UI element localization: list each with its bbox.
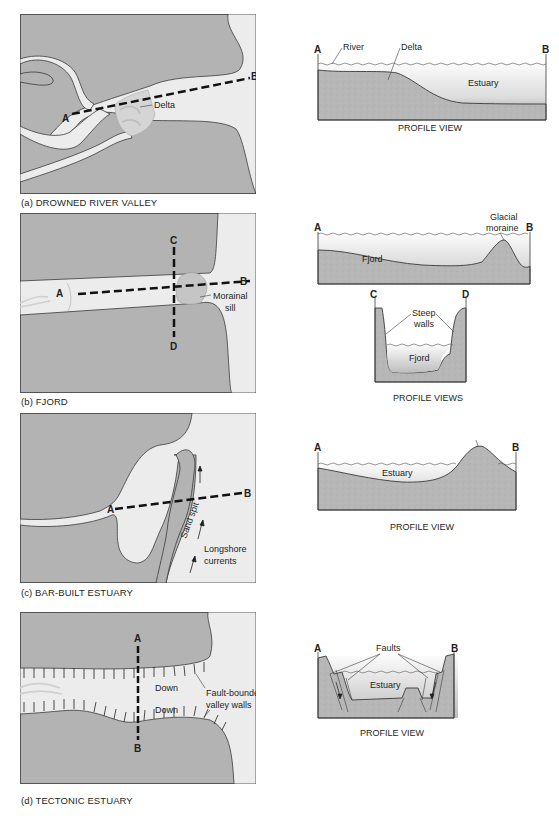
drowned-river-valley-profile: A B River Delta Estuary: [312, 40, 552, 130]
profile-b-glacial-label-2: moraine: [486, 223, 519, 233]
profile-a-estuary-label: Estuary: [468, 78, 499, 88]
fjord-ab-profile: A B Glacial moraine Fjord: [312, 210, 552, 290]
profile-view-label-b: PROFILE VIEWS: [393, 393, 463, 403]
tectonic-estuary-map: A B Down Down Fault-bounded valley walls: [20, 612, 256, 784]
map-b-point-a: A: [56, 288, 63, 299]
profile-a-river-label: River: [343, 42, 364, 52]
tectonic-estuary-profile: A B Faults Estuary: [312, 644, 472, 724]
map-tectonic-estuary: A B Down Down Fault-bounded valley walls: [20, 612, 256, 784]
profile-fjord-ab: A B Glacial moraine Fjord: [312, 210, 552, 290]
map-d-down-label-1: Down: [155, 683, 178, 693]
profile-drowned-river-valley: A B River Delta Estuary: [312, 40, 552, 130]
drowned-river-valley-map: A B Delta: [20, 14, 256, 194]
profile-a-point-a: A: [314, 44, 321, 55]
profile-b-point-c: C: [370, 290, 377, 300]
profile-d-point-b: B: [451, 644, 458, 654]
profile-b-steep-label-2: walls: [413, 319, 435, 329]
profile-b-fjord-label: Fjord: [362, 254, 383, 264]
map-b-point-b: B: [240, 276, 247, 287]
profile-b-steep-label-1: Steep: [412, 308, 436, 318]
profile-b-point-d: D: [462, 290, 469, 300]
map-c-longshore-label-2: currents: [204, 556, 237, 566]
profile-tectonic-estuary: A B Faults Estuary: [312, 644, 472, 724]
profile-view-label-c: PROFILE VIEW: [390, 522, 454, 532]
map-b-morainal-label-1: Morainal: [213, 291, 248, 301]
profile-c-estuary-label: Estuary: [382, 468, 413, 478]
fjord-cd-profile: C D Steep walls Fjord: [370, 290, 490, 390]
caption-bar-built-estuary: (c) BAR-BUILT ESTUARY: [21, 587, 133, 598]
map-d-down-label-2: Down: [155, 705, 178, 715]
profile-a-point-b: B: [542, 44, 549, 55]
map-a-point-b: B: [251, 71, 256, 82]
profile-bar-built-estuary: A B Sand spit Estuary: [312, 440, 552, 520]
map-c-longshore-label-1: Longshore: [204, 544, 247, 554]
profile-fjord-cd: C D Steep walls Fjord: [370, 290, 490, 390]
map-d-fault-label-1: Fault-bounded: [206, 688, 256, 698]
map-d-point-b: B: [134, 743, 141, 754]
profile-d-point-a: A: [314, 644, 321, 654]
bar-built-estuary-map: A B Sand spit Longshore currents: [20, 413, 256, 583]
caption-drowned-river-valley: (a) DROWNED RIVER VALLEY: [21, 197, 157, 208]
profile-d-faults-label: Faults: [376, 644, 401, 653]
map-fjord: A B C D Morainal sill: [20, 213, 256, 393]
bar-built-estuary-profile: A B Sand spit Estuary: [312, 440, 552, 520]
map-c-point-b: B: [244, 488, 251, 499]
profile-b-point-a: A: [314, 222, 321, 233]
map-a-delta-label: Delta: [154, 100, 175, 110]
profile-d-estuary-label: Estuary: [370, 680, 401, 690]
map-b-morainal-label-2: sill: [225, 303, 236, 313]
map-drowned-river-valley: A B Delta: [20, 14, 256, 194]
map-d-point-a: A: [134, 633, 141, 644]
profile-b-fjord-cross-label: Fjord: [409, 353, 430, 363]
map-a-point-a: A: [62, 113, 69, 124]
profile-view-label-d: PROFILE VIEW: [360, 728, 424, 738]
map-b-point-d: D: [170, 341, 177, 352]
profile-c-point-a: A: [314, 442, 321, 453]
fjord-map: A B C D Morainal sill: [20, 213, 256, 393]
caption-tectonic-estuary: (d) TECTONIC ESTUARY: [21, 795, 133, 806]
map-c-point-a: A: [107, 504, 114, 515]
profile-view-label-a: PROFILE VIEW: [398, 123, 462, 133]
profile-b-point-b: B: [526, 222, 533, 233]
map-d-fault-label-2: valley walls: [206, 700, 252, 710]
profile-a-delta-label: Delta: [401, 42, 422, 52]
profile-c-point-b: B: [512, 442, 519, 453]
map-b-point-c: C: [170, 235, 177, 246]
caption-fjord: (b) FJORD: [21, 396, 68, 407]
profile-b-glacial-label-1: Glacial: [490, 212, 518, 222]
map-bar-built-estuary: A B Sand spit Longshore currents: [20, 413, 256, 583]
